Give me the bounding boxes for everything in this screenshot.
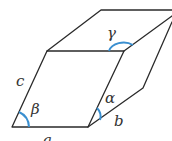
unit-cell-diagram: c β a α b γ	[0, 0, 172, 141]
right-face-edges	[88, 22, 172, 127]
angle-beta-label: β	[30, 100, 40, 118]
edge-c-label: c	[16, 72, 25, 90]
angle-gamma-label: γ	[107, 24, 116, 42]
alpha-arc	[97, 108, 101, 120]
edge-b-label: b	[114, 112, 124, 130]
beta-arc	[19, 112, 29, 127]
edge-a-label: a	[43, 131, 52, 141]
angle-alpha-label: α	[105, 89, 115, 107]
top-right-edge	[124, 16, 172, 51]
